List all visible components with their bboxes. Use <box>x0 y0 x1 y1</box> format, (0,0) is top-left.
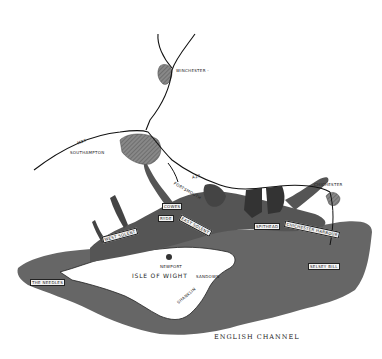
newport-town <box>166 254 172 260</box>
chichester-town <box>326 192 340 205</box>
map-drawing <box>0 0 382 359</box>
label-southampton: SOUTHAMPTON <box>70 150 105 155</box>
label-spithead: SPITHEAD <box>254 223 280 230</box>
label-the-needles: THE NEEDLES <box>30 279 65 286</box>
label-selsey-bill: SELSEY BILL <box>308 263 340 270</box>
label-isle-of-wight: ISLE OF WIGHT <box>132 272 188 279</box>
river-west <box>110 195 128 228</box>
label-chichester: CHICHESTER <box>314 182 343 187</box>
label-sandown: SANDOWN <box>196 274 220 279</box>
label-newport: NEWPORT <box>160 264 182 269</box>
label-english-channel: ENGLISH CHANNEL <box>214 333 299 341</box>
label-cowes: COWES <box>162 203 182 210</box>
road-m3-north <box>158 34 172 68</box>
label-ryde: RYDE <box>158 215 174 222</box>
southampton-town <box>120 134 161 164</box>
road-a27-branch <box>168 163 178 182</box>
road-a34-north <box>172 34 195 70</box>
label-winchester: WINCHESTER - <box>176 68 209 73</box>
